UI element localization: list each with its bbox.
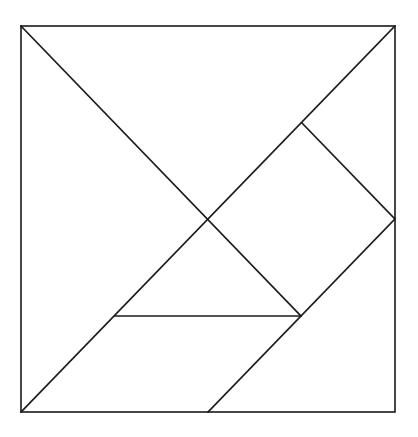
tangram-diagram (0, 0, 418, 437)
